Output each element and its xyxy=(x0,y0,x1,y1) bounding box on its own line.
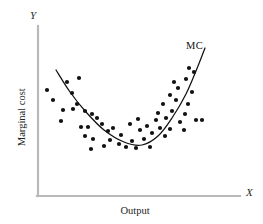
scatter-point xyxy=(91,137,95,141)
scatter-point xyxy=(59,119,63,123)
scatter-point xyxy=(164,116,168,120)
scatter-point xyxy=(130,139,134,143)
scatter-point xyxy=(176,86,180,90)
x-axis-title: Output xyxy=(28,206,242,217)
scatter-point xyxy=(65,80,69,84)
scatter-point xyxy=(190,90,194,94)
scatter-point xyxy=(168,127,172,131)
scatter-point xyxy=(182,128,186,132)
scatter-point xyxy=(83,134,87,138)
scatter-point xyxy=(178,120,182,124)
scatter-point xyxy=(138,128,142,132)
x-axis-letter: X xyxy=(246,187,253,198)
axis-lines xyxy=(37,26,240,196)
scatter-point xyxy=(128,122,132,126)
scatter-point xyxy=(174,98,178,102)
plot-canvas xyxy=(0,0,263,224)
scatter-point xyxy=(194,118,198,122)
scatter-point xyxy=(183,112,187,116)
scatter-point xyxy=(170,109,174,113)
scatter-point xyxy=(187,66,191,70)
scatter-point xyxy=(184,77,188,81)
scatter-point xyxy=(150,131,154,135)
scatter-points xyxy=(45,66,204,151)
scatter-point xyxy=(161,102,165,106)
scatter-point xyxy=(142,137,146,141)
scatter-point xyxy=(136,117,140,121)
y-axis-letter: Y xyxy=(30,10,36,21)
scatter-point xyxy=(156,111,160,115)
scatter-point xyxy=(71,107,75,111)
scatter-point xyxy=(163,134,167,138)
scatter-point xyxy=(111,126,115,130)
scatter-point xyxy=(186,102,190,106)
scatter-point xyxy=(145,124,149,128)
scatter-point xyxy=(134,146,138,150)
scatter-point xyxy=(200,118,204,122)
scatter-point xyxy=(102,144,106,148)
scatter-point xyxy=(61,108,65,112)
scatter-point xyxy=(95,116,99,120)
scatter-point xyxy=(90,112,94,116)
scatter-point xyxy=(119,133,123,137)
scatter-point xyxy=(86,125,90,129)
scatter-point xyxy=(158,126,162,130)
scatter-point xyxy=(89,147,93,151)
scatter-point xyxy=(51,98,55,102)
scatter-point xyxy=(100,122,104,126)
scatter-point xyxy=(108,138,112,142)
scatter-point xyxy=(45,88,49,92)
scatter-point xyxy=(77,76,81,80)
y-axis-title: Marginal cost xyxy=(17,62,28,172)
scatter-point xyxy=(124,145,128,149)
scatter-point xyxy=(154,118,158,122)
scatter-point xyxy=(168,93,172,97)
mc-curve-label: MC xyxy=(186,41,203,52)
scatter-point xyxy=(148,145,152,149)
scatter-point xyxy=(79,125,83,129)
marginal-cost-scatter-figure: Y X Marginal cost Output MC xyxy=(0,0,263,224)
scatter-point xyxy=(172,80,176,84)
scatter-point xyxy=(117,142,121,146)
